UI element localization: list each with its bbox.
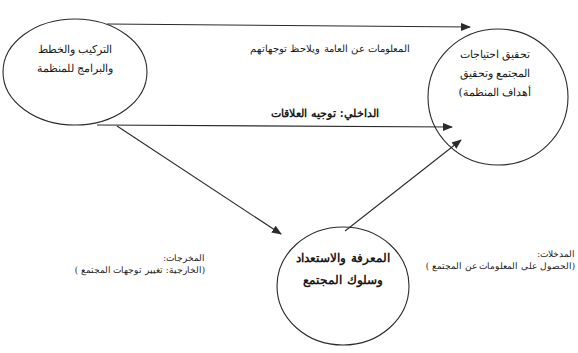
outputs-note-title: المخرجات:	[85, 252, 205, 264]
node-goals-line-1: تحقيق احتياجات	[445, 45, 545, 64]
inputs-note: المدخلات: (الحصول على المعلومات عن المجت…	[430, 248, 575, 272]
edge-up-arrow	[345, 140, 461, 231]
edge-middle-arrow	[97, 125, 452, 127]
node-knowledge-line-1: المعرفة والاستعداد	[283, 247, 403, 269]
inputs-note-title: المدخلات:	[430, 248, 575, 260]
edge-middle-label: الداخلي: توجيه العلاقات	[270, 107, 380, 119]
edge-top-label: المعلومات عن العامة ويلاحظ توجهاتهم	[260, 43, 410, 54]
outputs-note: المخرجات: (الخارجية: تغيير توجهات المجتم…	[85, 252, 205, 276]
node-knowledge-text: المعرفة والاستعداد وسلوك المجتمع	[283, 247, 403, 291]
node-goals-line-3: أهداف المنظمة)	[445, 83, 545, 102]
node-goals-text: تحقيق احتياجات المجتمع وتحقيق أهداف المن…	[445, 45, 545, 102]
outputs-note-body: (الخارجية: تغيير توجهات المجتمع )	[85, 264, 205, 276]
node-knowledge-line-2: وسلوك المجتمع	[283, 269, 403, 291]
node-goals-line-2: المجتمع وتحقيق	[445, 64, 545, 83]
node-structure-line-2: والبرامج للمنظمة	[20, 59, 130, 78]
node-structure-line-1: التركيب والخطط	[20, 40, 130, 59]
inputs-note-body: (الحصول على المعلومات عن المجتمع )	[430, 260, 575, 272]
edge-down-arrow	[117, 126, 281, 234]
edge-top-arrow	[107, 24, 470, 27]
node-structure-text: التركيب والخطط والبرامج للمنظمة	[20, 40, 130, 78]
